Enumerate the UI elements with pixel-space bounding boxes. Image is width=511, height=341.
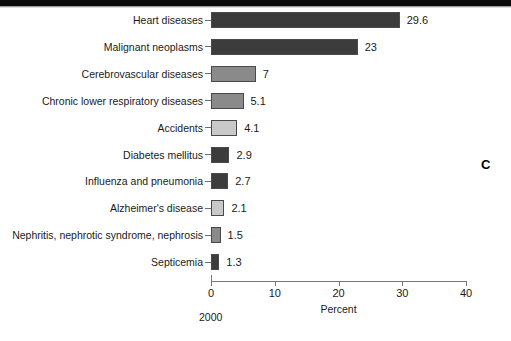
bar-value-label: 2.1 <box>231 200 246 216</box>
bar-value-label: 2.9 <box>236 147 251 163</box>
x-axis-tick <box>211 281 212 286</box>
x-axis-tick <box>402 281 403 286</box>
bar <box>211 254 219 270</box>
bar-row: Malignant neoplasms23 <box>0 39 511 55</box>
category-label: Septicemia <box>151 254 203 270</box>
bar-value-label: 7 <box>263 66 269 82</box>
x-axis-tick-label: 0 <box>191 287 231 299</box>
bar <box>211 93 244 109</box>
bar-row: Influenza and pneumonia2.7 <box>0 173 511 189</box>
x-axis-tick <box>275 281 276 286</box>
bar-value-label: 5.1 <box>251 93 266 109</box>
x-axis-tick <box>466 281 467 286</box>
category-label: Accidents <box>157 120 203 136</box>
x-axis-tick-label: 30 <box>382 287 422 299</box>
bar-row: Diabetes mellitus2.9 <box>0 147 511 163</box>
x-axis-title: Percent <box>211 303 466 315</box>
figure-panel-c: Heart diseases29.6Malignant neoplasms23C… <box>0 0 511 341</box>
bar <box>211 200 224 216</box>
bar <box>211 173 228 189</box>
bar <box>211 227 221 243</box>
bar-row: Alzheimer's disease2.1 <box>0 200 511 216</box>
x-axis-tick-label: 40 <box>446 287 486 299</box>
bar-value-label: 4.1 <box>244 120 259 136</box>
bar-row: Cerebrovascular diseases7 <box>0 66 511 82</box>
bar-row: Heart diseases29.6 <box>0 12 511 28</box>
category-label: Diabetes mellitus <box>123 147 203 163</box>
panel-letter-label: C <box>481 157 490 172</box>
bar-row: Nephritis, nephrotic syndrome, nephrosis… <box>0 227 511 243</box>
bar <box>211 39 358 55</box>
bar-row: Accidents4.1 <box>0 120 511 136</box>
category-label: Malignant neoplasms <box>104 39 203 55</box>
category-label: Heart diseases <box>133 12 203 28</box>
category-label: Alzheimer's disease <box>110 200 203 216</box>
bar-row: Chronic lower respiratory diseases5.1 <box>0 93 511 109</box>
year-annotation: 2000 <box>199 311 222 323</box>
bar <box>211 120 237 136</box>
x-axis-tick <box>339 281 340 286</box>
bar-value-label: 23 <box>365 39 377 55</box>
bar-value-label: 1.3 <box>226 254 241 270</box>
x-axis-tick-label: 20 <box>319 287 359 299</box>
category-label: Nephritis, nephrotic syndrome, nephrosis <box>12 227 203 243</box>
x-axis-tick-label: 10 <box>255 287 295 299</box>
category-label: Chronic lower respiratory diseases <box>42 93 203 109</box>
bar-value-label: 29.6 <box>407 12 428 28</box>
bar <box>211 66 256 82</box>
bar <box>211 12 400 28</box>
bar-value-label: 2.7 <box>235 173 250 189</box>
category-label: Cerebrovascular diseases <box>82 66 203 82</box>
bar <box>211 147 229 163</box>
bar-value-label: 1.5 <box>228 227 243 243</box>
bar-row: Septicemia1.3 <box>0 254 511 270</box>
category-label: Influenza and pneumonia <box>85 173 203 189</box>
